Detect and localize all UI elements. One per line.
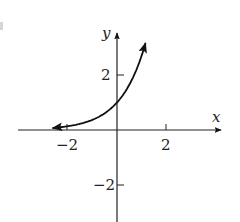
x-axis-label: x (212, 108, 221, 126)
exponential-graph: y x −2 2 2 −2 (0, 0, 240, 222)
x-tick-label-2: 2 (161, 136, 171, 154)
exponential-curve (53, 43, 146, 128)
x-tick-label-neg2: −2 (56, 136, 78, 154)
y-axis-label: y (101, 24, 111, 42)
y-tick-label-neg2: −2 (93, 176, 115, 194)
y-tick-label-2: 2 (101, 66, 111, 84)
